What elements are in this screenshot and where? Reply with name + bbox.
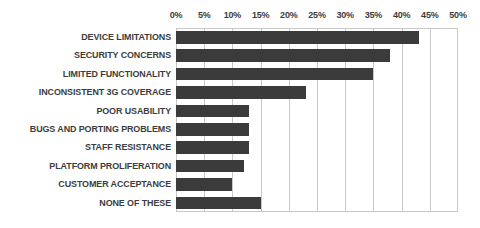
category-label: PLATFORM PROLIFERATION [10,157,171,175]
bar [176,86,306,99]
bar-row [176,120,458,138]
x-tick-label: 0% [170,10,183,20]
category-label: POOR USABILITY [10,102,171,120]
x-tick-label: 20% [280,10,297,20]
bar-row [176,194,458,212]
x-tick-label: 35% [365,10,382,20]
x-tick-label: 15% [252,10,269,20]
bar [176,123,249,136]
bar [176,49,390,62]
x-tick-label: 10% [224,10,241,20]
x-tick-label: 50% [449,10,466,20]
bar-chart: 0%5%10%15%20%25%30%35%40%45%50% DEVICE L… [0,0,480,228]
category-label: SECURITY CONCERNS [10,46,171,64]
x-tick-label: 30% [336,10,353,20]
category-label: STAFF RESISTANCE [10,138,171,156]
bar [176,178,232,191]
bar [176,197,261,210]
bar-row [176,65,458,83]
y-axis-category-labels: DEVICE LIMITATIONSSECURITY CONCERNSLIMIT… [0,28,171,212]
category-label: CUSTOMER ACCEPTANCE [10,175,171,193]
bar [176,105,249,118]
bar [176,160,244,173]
bar [176,141,249,154]
category-label: LIMITED FUNCTIONALITY [10,65,171,83]
bar-row [176,83,458,101]
category-label: INCONSISTENT 3G COVERAGE [10,83,171,101]
bar [176,68,373,81]
bar-row [176,46,458,64]
bar-row [176,138,458,156]
bar-row [176,28,458,46]
bars-layer [176,28,458,212]
category-label: BUGS AND PORTING PROBLEMS [10,120,171,138]
bar-row [176,102,458,120]
x-tick-label: 40% [393,10,410,20]
bar-row [176,175,458,193]
x-tick-label: 45% [421,10,438,20]
x-tick-label: 25% [308,10,325,20]
category-label: NONE OF THESE [10,194,171,212]
x-axis-tick-labels: 0%5%10%15%20%25%30%35%40%45%50% [176,10,458,25]
bar [176,31,419,44]
x-tick-label: 5% [198,10,211,20]
category-label: DEVICE LIMITATIONS [10,28,171,46]
bar-row [176,157,458,175]
